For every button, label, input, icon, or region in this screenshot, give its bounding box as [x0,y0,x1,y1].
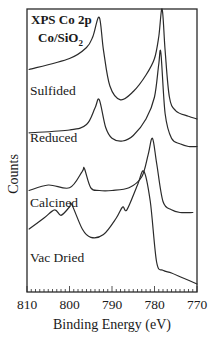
x-tick-label: 800 [59,297,80,312]
x-axis-ticks [27,286,197,292]
chart-subtitle: Co/SiO2 [38,30,83,48]
xps-chart: XPS Co 2p Co/SiO2 SulfidedReducedCalcine… [0,0,217,342]
x-tick-label: 810 [17,297,38,312]
series-vac-dried-curve [29,171,197,284]
chart-title: XPS Co 2p [31,12,92,27]
series-label-vac-dried: Vac Dried [30,250,85,265]
series-curves [29,9,197,284]
x-axis-label: Binding Energy (eV) [53,317,171,333]
x-tick-label: 780 [144,297,165,312]
series-label-reduced: Reduced [30,130,77,145]
series-label-calcined: Calcined [30,195,78,210]
y-axis-label: Counts [6,154,21,194]
x-tick-label: 790 [102,297,123,312]
x-tick-label: 770 [187,297,208,312]
x-tick-labels: 810800790780770 [17,297,208,312]
series-labels: SulfidedReducedCalcinedVac Dried [30,83,85,265]
series-label-sulfided: Sulfided [30,83,76,98]
